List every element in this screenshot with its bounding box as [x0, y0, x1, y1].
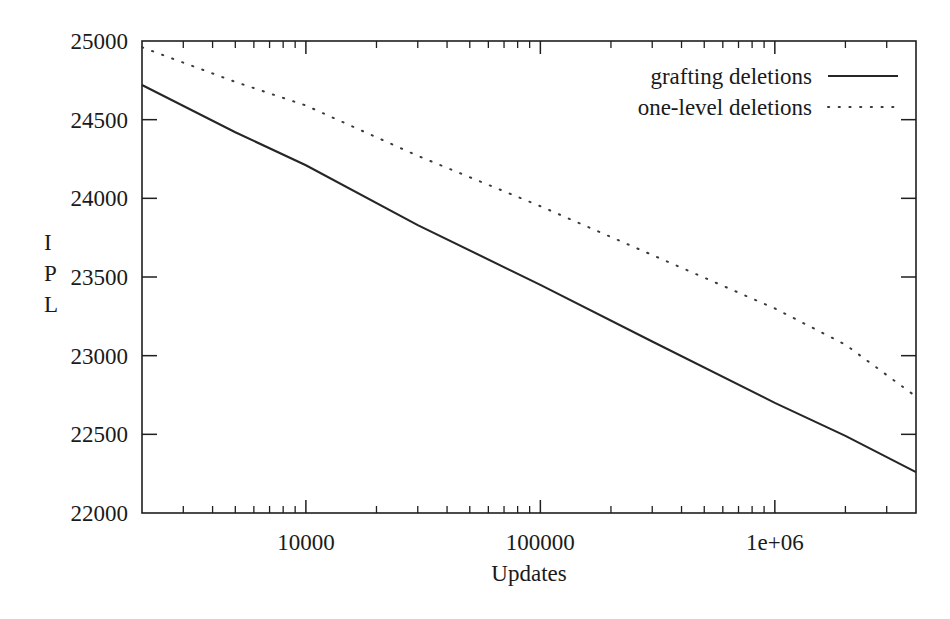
y-tick-label: 23500 — [71, 265, 129, 290]
y-tick-label: 24000 — [71, 186, 129, 211]
x-axis-title: Updates — [491, 561, 566, 586]
y-axis-title-char: I — [44, 230, 52, 255]
y-axis-title-char: P — [44, 261, 57, 286]
x-tick-label: 100000 — [506, 530, 575, 555]
x-tick-label: 10000 — [277, 530, 335, 555]
y-axis-title-char: L — [44, 292, 58, 317]
y-tick-label: 24500 — [71, 108, 129, 133]
legend-label: one-level deletions — [638, 95, 812, 120]
x-tick-label: 1e+06 — [746, 530, 804, 555]
chart-container: 100001000001e+06220002250023000235002400… — [0, 0, 950, 619]
y-tick-label: 23000 — [71, 344, 129, 369]
y-tick-label: 25000 — [71, 29, 129, 54]
y-tick-label: 22000 — [71, 501, 129, 526]
legend-label: grafting deletions — [650, 64, 812, 89]
y-tick-label: 22500 — [71, 422, 129, 447]
line-chart: 100001000001e+06220002250023000235002400… — [0, 0, 950, 619]
